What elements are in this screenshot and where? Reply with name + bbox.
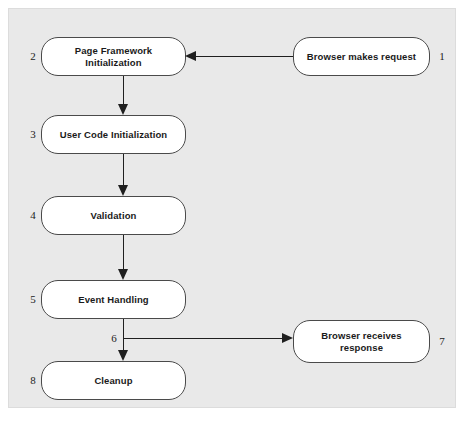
node-browser-makes-request-label: Browser makes request — [307, 51, 416, 63]
node-number-5: 5 — [27, 294, 39, 305]
diagram-panel: Browser makes request 1 Page Framework I… — [8, 8, 456, 408]
edge-event-handling-to-browser-receives-response — [123, 338, 283, 340]
node-browser-makes-request[interactable]: Browser makes request — [293, 37, 430, 76]
edge-framework-to-user-code — [123, 76, 125, 106]
node-number-8: 8 — [27, 375, 39, 386]
arrowhead-to-event-handling — [118, 269, 128, 280]
node-cleanup[interactable]: Cleanup — [41, 361, 186, 400]
node-validation-label: Validation — [91, 210, 137, 222]
node-number-4: 4 — [27, 210, 39, 221]
arrowhead-to-cleanup — [118, 350, 128, 361]
node-number-1: 1 — [436, 51, 448, 62]
node-event-handling[interactable]: Event Handling — [41, 280, 186, 319]
node-browser-receives-response[interactable]: Browser receives response — [293, 320, 430, 363]
edge-browser-request-to-framework — [195, 56, 293, 58]
node-number-6: 6 — [108, 333, 120, 344]
node-user-code-initialization-label: User Code Initialization — [60, 129, 167, 141]
node-validation[interactable]: Validation — [41, 196, 186, 235]
edge-user-code-to-validation — [123, 154, 125, 187]
node-cleanup-label: Cleanup — [94, 375, 132, 387]
node-number-2: 2 — [27, 51, 39, 62]
arrowhead-to-user-code-initialization — [118, 104, 128, 115]
edge-event-handling-to-cleanup — [123, 319, 125, 352]
arrowhead-to-validation — [118, 185, 128, 196]
edge-validation-to-event-handling — [123, 235, 125, 271]
node-page-framework-initialization-label: Page Framework Initialization — [48, 45, 179, 69]
arrowhead-to-browser-receives-response — [282, 333, 293, 343]
node-number-7: 7 — [436, 336, 448, 347]
node-user-code-initialization[interactable]: User Code Initialization — [41, 115, 186, 154]
diagram-page: Browser makes request 1 Page Framework I… — [0, 0, 472, 424]
node-page-framework-initialization[interactable]: Page Framework Initialization — [41, 37, 186, 76]
arrowhead-to-page-framework-initialization — [185, 51, 196, 61]
node-number-3: 3 — [27, 129, 39, 140]
node-browser-receives-response-label: Browser receives response — [321, 330, 401, 354]
node-event-handling-label: Event Handling — [78, 294, 149, 306]
